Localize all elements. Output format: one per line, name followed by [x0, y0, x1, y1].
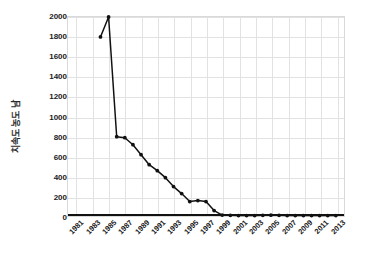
- x-axis-tick-label: 1985: [100, 218, 118, 236]
- data-point-marker: [180, 192, 184, 196]
- x-axis-tick-label: 2013: [329, 218, 347, 236]
- y-axis-tick-label: 1000: [49, 112, 67, 121]
- series-line: [100, 17, 335, 216]
- x-axis-tick-label: 1989: [133, 218, 151, 236]
- x-axis-tick-label: 1995: [182, 218, 200, 236]
- x-axis-tick-label: 1987: [116, 218, 134, 236]
- data-point-marker: [172, 185, 176, 189]
- line-chart: 치속도 농도 남 0200400600800100012001400160018…: [0, 0, 372, 253]
- data-point-marker: [196, 199, 200, 203]
- data-point-marker: [99, 35, 103, 39]
- data-point-marker: [107, 15, 111, 19]
- y-axis-tick-label: 600: [54, 152, 67, 161]
- x-axis-tick-label: 1983: [84, 218, 102, 236]
- y-axis-tick-label: 1400: [49, 72, 67, 81]
- y-axis-tick-label: 200: [54, 192, 67, 201]
- x-axis-tick-label: 2005: [264, 218, 282, 236]
- x-axis-tick-label: 1993: [165, 218, 183, 236]
- data-point-marker: [131, 143, 135, 147]
- y-axis-tick-label: 800: [54, 132, 67, 141]
- data-point-marker: [212, 209, 216, 213]
- x-axis-tick-label: 2001: [231, 218, 249, 236]
- y-axis-tick-label: 1600: [49, 52, 67, 61]
- y-axis-tick-label: 1800: [49, 32, 67, 41]
- x-axis-tick-label: 1981: [67, 218, 85, 236]
- data-point-marker: [164, 176, 168, 180]
- y-axis-tick-label: 400: [54, 172, 67, 181]
- data-point-marker: [139, 153, 143, 157]
- data-point-marker: [204, 200, 208, 204]
- plot-area: [67, 16, 345, 217]
- x-axis-tick-labels: 1981198319851987198919911993199519971999…: [67, 218, 345, 253]
- data-point-marker: [188, 200, 192, 204]
- data-point-marker: [123, 136, 127, 140]
- y-axis-tick-label: 1200: [49, 92, 67, 101]
- x-axis-tick-label: 1997: [198, 218, 216, 236]
- x-axis-tick-label: 2011: [313, 218, 331, 236]
- data-point-marker: [115, 135, 119, 139]
- data-point-marker: [155, 169, 159, 173]
- x-axis-tick-label: 2009: [296, 218, 314, 236]
- y-axis-tick-label: 2000: [49, 12, 67, 21]
- x-axis-tick-label: 1999: [215, 218, 233, 236]
- data-series-layer: [68, 17, 344, 217]
- x-axis-tick-label: 2003: [247, 218, 265, 236]
- x-axis-line: [68, 214, 344, 216]
- data-point-marker: [147, 163, 151, 167]
- x-axis-tick-label: 1991: [149, 218, 167, 236]
- x-axis-tick-label: 2007: [280, 218, 298, 236]
